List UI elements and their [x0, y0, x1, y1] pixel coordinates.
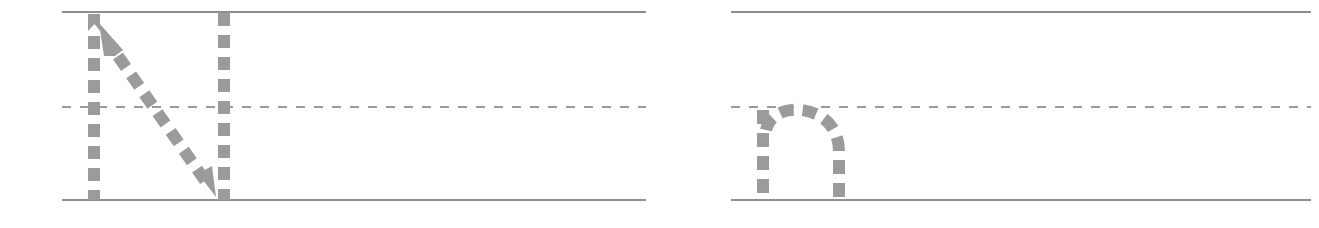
stroke-arrow-head-upleft-icon [99, 23, 123, 56]
stroke-arch-and-right-leg[interactable] [766, 110, 839, 200]
stroke-arrow-head-up-icon [88, 14, 100, 31]
worksheet-canvas [0, 0, 1319, 228]
stroke-left-vertical-downstroke[interactable] [88, 14, 100, 200]
tracing-letter-lowercase-n[interactable] [763, 110, 839, 200]
stroke-dashed-path [766, 110, 839, 200]
worksheet-svg [0, 0, 1319, 228]
guide-lines-group-right [731, 12, 1311, 200]
stroke-diagonal-downstroke[interactable] [99, 23, 216, 197]
stroke-dashed-path [118, 56, 206, 182]
